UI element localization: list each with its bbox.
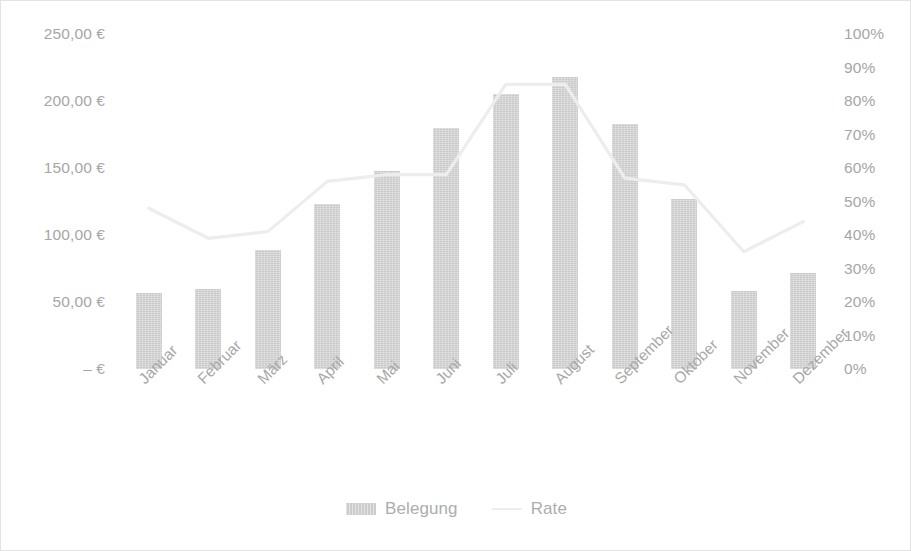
left-axis-tick-label: 50,00 € bbox=[53, 293, 105, 311]
left-axis-tick-label: 150,00 € bbox=[44, 159, 105, 177]
left-axis-tick-label: 250,00 € bbox=[44, 25, 105, 43]
legend-item-belegung[interactable]: Belegung bbox=[346, 499, 458, 519]
bar-swatch-icon bbox=[346, 503, 376, 515]
bar-august[interactable] bbox=[552, 77, 578, 369]
bar-juli[interactable] bbox=[493, 94, 519, 369]
category-axis: JanuarFebruarMärzAprilMaiJuniJuliAugustS… bbox=[119, 375, 833, 485]
legend-label-belegung: Belegung bbox=[385, 499, 458, 519]
legend-item-rate[interactable]: Rate bbox=[492, 499, 567, 519]
chart-legend: Belegung Rate bbox=[1, 499, 911, 519]
right-axis-tick-label: 50% bbox=[844, 193, 875, 211]
bar-mai[interactable] bbox=[374, 171, 400, 369]
right-axis-tick-label: 70% bbox=[844, 126, 875, 144]
left-axis-tick-label: 200,00 € bbox=[44, 92, 105, 110]
right-axis-tick-label: 100% bbox=[844, 25, 884, 43]
right-axis-tick-label: 20% bbox=[844, 293, 875, 311]
right-axis-tick-label: 60% bbox=[844, 159, 875, 177]
right-percentage-axis: 100%90%80%70%60%50%40%30%20%10%0% bbox=[844, 1, 911, 551]
right-axis-tick-label: 0% bbox=[844, 360, 867, 378]
line-swatch-icon bbox=[492, 503, 522, 515]
right-axis-tick-label: 40% bbox=[844, 226, 875, 244]
rate-line-path bbox=[149, 84, 804, 252]
bar-september[interactable] bbox=[612, 124, 638, 369]
bar-oktober[interactable] bbox=[671, 199, 697, 369]
left-value-axis: 250,00 €200,00 €150,00 €100,00 €50,00 €–… bbox=[1, 1, 105, 551]
right-axis-tick-label: 90% bbox=[844, 59, 875, 77]
right-axis-tick-label: 80% bbox=[844, 92, 875, 110]
chart-container: 250,00 €200,00 €150,00 €100,00 €50,00 €–… bbox=[0, 0, 911, 551]
line-series-rate bbox=[119, 34, 833, 369]
plot-area bbox=[119, 34, 833, 369]
left-axis-tick-label: – € bbox=[83, 360, 105, 378]
bar-april[interactable] bbox=[314, 204, 340, 369]
right-axis-tick-label: 30% bbox=[844, 260, 875, 278]
bar-juni[interactable] bbox=[433, 128, 459, 369]
left-axis-tick-label: 100,00 € bbox=[44, 226, 105, 244]
legend-label-rate: Rate bbox=[531, 499, 567, 519]
